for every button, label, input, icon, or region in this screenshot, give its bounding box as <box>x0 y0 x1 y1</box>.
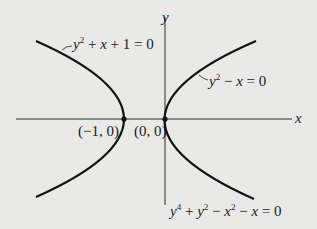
point-origin <box>162 116 167 121</box>
right-parabola-curve <box>164 41 256 199</box>
point-label-origin: (0, 0) <box>134 124 167 139</box>
combined-equation: y4 + y2 − x2 − x = 0 <box>170 203 282 219</box>
right-curve-leader <box>199 75 208 80</box>
y-axis-label: y <box>162 10 169 25</box>
left-curve-leader <box>62 46 72 50</box>
point-minus-one-zero <box>121 116 126 121</box>
curves-diagram <box>0 0 317 229</box>
x-axis-label: x <box>295 111 302 126</box>
right-curve-equation: y2 − x = 0 <box>209 73 266 89</box>
point-label-minus-one-zero: (−1, 0) <box>78 124 119 139</box>
left-curve-equation: y2 + x + 1 = 0 <box>73 36 154 52</box>
